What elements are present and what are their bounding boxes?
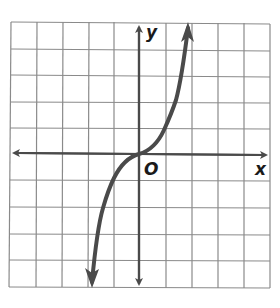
y-axis-label: y — [146, 24, 157, 41]
origin-label: O — [144, 161, 158, 178]
x-axis-label: x — [255, 161, 266, 178]
coordinate-graph — [0, 0, 280, 308]
